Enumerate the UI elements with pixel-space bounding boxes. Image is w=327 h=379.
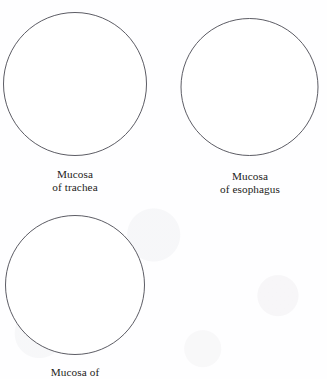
caption-third-line-1: Mucosa of bbox=[15, 366, 135, 379]
caption-third: Mucosa of bbox=[15, 366, 135, 379]
specimen-figure: Mucosa of trachea Mucosa of esophagus Mu… bbox=[0, 0, 327, 379]
third-circle-outline bbox=[0, 0, 327, 379]
